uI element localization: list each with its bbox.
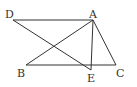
label-A: A <box>88 8 98 21</box>
segment-AC <box>93 20 116 65</box>
label-C: C <box>116 67 124 80</box>
segment-AB <box>26 20 93 65</box>
segment-AE <box>91 20 93 70</box>
geometry-diagram: D A B E C <box>0 0 137 87</box>
label-D: D <box>5 8 14 21</box>
label-B: B <box>17 67 25 80</box>
label-E: E <box>87 72 95 85</box>
segment-DE <box>13 20 91 70</box>
